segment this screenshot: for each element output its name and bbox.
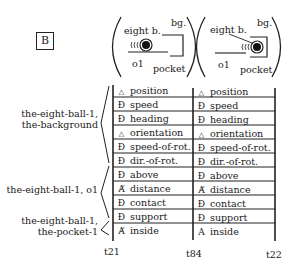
a-slash-icon: Ⱥ <box>196 184 207 197</box>
table-row: Ɖsupport <box>196 211 247 224</box>
table-row: △position <box>116 84 168 97</box>
d-slash-icon: Ɖ <box>196 100 207 113</box>
table-row: Ɖspeed-of-rot. <box>196 141 271 154</box>
time-tick-t84: t84 <box>186 248 202 259</box>
d-slash-icon: Ɖ <box>116 99 127 112</box>
table-row: Ɖheading <box>196 113 249 126</box>
d-slash-icon: Ɖ <box>116 113 127 126</box>
table-row: Ɖabove <box>116 168 158 181</box>
table-row: Ɖdir.-of-rot. <box>196 155 258 168</box>
d-slash-icon: Ɖ <box>116 141 127 154</box>
table-row: Ɖspeed <box>196 99 238 112</box>
scene1-background-label: bg. <box>171 18 186 28</box>
group-label-pocket: the-eight-ball-1, the-pocket-1 <box>21 215 98 237</box>
scene2-pocket-label: pocket <box>240 65 272 75</box>
table-row: Ⱥdistance <box>116 182 171 195</box>
table-row: Ⱥinside <box>116 224 159 237</box>
table-row: Ɖspeed-of-rot. <box>116 140 191 153</box>
table-row: Ɖspeed <box>116 98 158 111</box>
table-row: △position <box>196 85 248 98</box>
d-slash-icon: Ɖ <box>116 211 127 224</box>
scene1-o1-label: o1 <box>132 59 144 69</box>
d-slash-icon: Ɖ <box>196 156 207 169</box>
table-row: Ainside <box>196 225 239 238</box>
d-slash-icon: Ɖ <box>116 169 127 182</box>
a-slash-icon: Ⱥ <box>116 225 127 238</box>
scene1-pocket-label: pocket <box>153 64 185 74</box>
a-icon: A <box>196 226 207 239</box>
a-slash-icon: Ⱥ <box>116 183 127 196</box>
table-row: △orientation <box>196 127 263 140</box>
d-slash-icon: Ɖ <box>196 142 207 155</box>
d-slash-icon: Ɖ <box>196 170 207 183</box>
scene2-background-label: bg. <box>257 18 272 28</box>
table-row: Ɖcontact <box>196 197 246 210</box>
d-slash-icon: Ɖ <box>196 114 207 127</box>
d-slash-icon: Ɖ <box>196 212 207 225</box>
group-label-background: the-eight-ball-1, the-background <box>21 108 98 130</box>
scene1-eight-ball-label: eight b. <box>124 26 161 36</box>
scene2-eight-ball-label: eight b. <box>210 25 247 35</box>
table-row: Ⱥdistance <box>196 183 251 196</box>
d-slash-icon: Ɖ <box>116 155 127 168</box>
time-tick-t21: t21 <box>104 246 120 257</box>
group-label-o1: the-eight-ball-1, o1 <box>6 184 98 195</box>
table-row: Ɖabove <box>196 169 238 182</box>
d-slash-icon: Ɖ <box>196 198 207 211</box>
d-slash-icon: Ɖ <box>116 197 127 210</box>
table-row: △orientation <box>116 126 183 139</box>
table-row: Ɖcontact <box>116 196 166 209</box>
time-tick-t22: t22 <box>266 249 282 260</box>
scene2-o1-label: o1 <box>218 60 230 70</box>
table-row: Ɖsupport <box>116 210 167 223</box>
table-row: Ɖheading <box>116 112 169 125</box>
table-row: Ɖdir.-of-rot. <box>116 154 178 167</box>
